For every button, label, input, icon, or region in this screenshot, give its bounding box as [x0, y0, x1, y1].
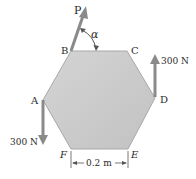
force-d-arrow: [150, 54, 160, 97]
vertex-label-d: D: [160, 94, 168, 105]
dimension-label: 0.2 m: [86, 158, 112, 168]
label-300n-a: 300 N: [10, 137, 38, 147]
vertex-label-e: E: [130, 149, 139, 160]
label-p: P: [74, 4, 82, 17]
vertex-label-a: A: [30, 95, 39, 106]
hexagon-plate: [43, 51, 155, 149]
vertex-label-c: C: [131, 45, 139, 56]
vertex-label-f: F: [59, 149, 68, 160]
vertex-label-b: B: [61, 45, 68, 56]
label-alpha: α: [91, 28, 99, 41]
label-300n-d: 300 N: [161, 56, 189, 66]
hexagon-force-diagram: P α B C D A F E 300 N 300 N 0.2 m: [0, 0, 196, 179]
